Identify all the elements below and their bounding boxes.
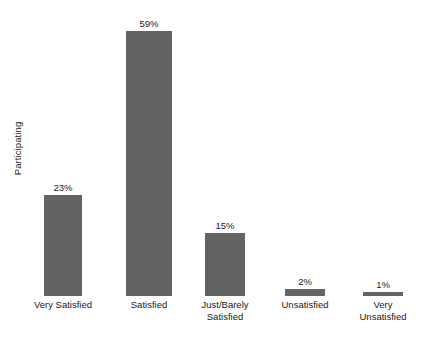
bar-chart: Participating 23% 59% 15% 2% 1% Very Sat…	[0, 0, 437, 348]
category-slot-satisfied: Satisfied	[110, 296, 188, 311]
category-slot-very-satisfied: Very Satisfied	[24, 296, 102, 311]
bar-rect-very-satisfied[interactable]	[44, 195, 82, 296]
plot-area: 23% 59% 15% 2% 1%	[36, 0, 437, 296]
bar-rect-unsatisfied[interactable]	[285, 289, 325, 296]
bar-slot-satisfied: 59%	[126, 0, 172, 296]
category-slot-very-unsatisfied: Very Unsatisfied	[344, 296, 422, 323]
bar-slot-very-satisfied: 23%	[44, 0, 82, 296]
bar-value-satisfied: 59%	[126, 18, 172, 29]
bar-value-just-barely-satisfied: 15%	[205, 220, 245, 231]
y-axis-title-text: Participating	[13, 121, 24, 175]
bar-slot-just-barely-satisfied: 15%	[205, 0, 245, 296]
category-label-very-satisfied: Very Satisfied	[24, 296, 102, 311]
bar-value-very-satisfied: 23%	[44, 182, 82, 193]
category-axis: Very Satisfied Satisfied Just/Barely Sat…	[36, 296, 437, 348]
y-axis-title: Participating	[0, 0, 36, 296]
category-label-just-barely-satisfied: Just/Barely Satisfied	[186, 296, 264, 323]
category-slot-unsatisfied: Unsatisfied	[266, 296, 344, 311]
bar-slot-unsatisfied: 2%	[285, 0, 325, 296]
category-label-unsatisfied: Unsatisfied	[266, 296, 344, 311]
category-label-satisfied: Satisfied	[110, 296, 188, 311]
category-label-very-unsatisfied: Very Unsatisfied	[344, 296, 422, 323]
bar-slot-very-unsatisfied: 1%	[363, 0, 403, 296]
category-slot-just-barely-satisfied: Just/Barely Satisfied	[186, 296, 264, 323]
bar-value-very-unsatisfied: 1%	[363, 279, 403, 290]
bar-value-unsatisfied: 2%	[285, 276, 325, 287]
bar-rect-just-barely-satisfied[interactable]	[205, 233, 245, 296]
bar-rect-satisfied[interactable]	[126, 31, 172, 296]
